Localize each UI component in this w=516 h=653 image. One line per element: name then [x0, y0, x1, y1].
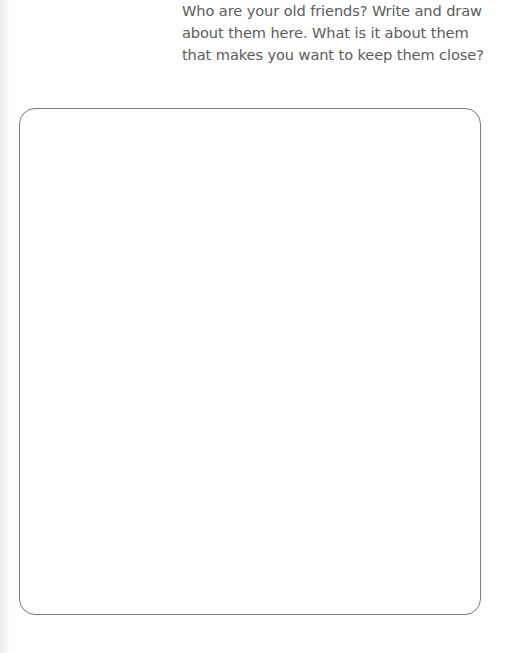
prompt-line-2: about them here. What is it about them: [182, 22, 502, 44]
prompt-line-1: Who are your old friends? Write and draw: [182, 0, 502, 22]
drawing-writing-area[interactable]: [19, 108, 481, 615]
page-gutter-shadow: [0, 0, 10, 653]
prompt-line-3: that makes you want to keep them close?: [182, 44, 502, 66]
journal-prompt: Who are your old friends? Write and draw…: [182, 0, 502, 66]
